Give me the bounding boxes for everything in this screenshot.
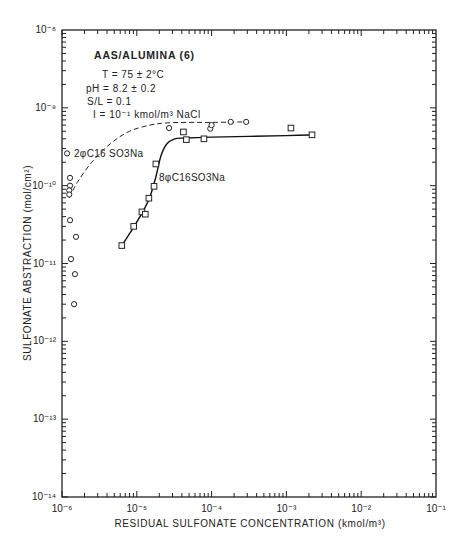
y-tick-label: 10⁻⁸: [35, 24, 56, 35]
y-tick-label: 10⁻¹⁰: [32, 180, 56, 191]
data-point-circle: [67, 192, 72, 197]
x-axis-title: RESIDUAL SULFONATE CONCENTRATION (kmol/m…: [114, 518, 385, 529]
y-tick-label: 10⁻⁹: [35, 102, 56, 113]
fit-curve-2phi: [69, 122, 246, 198]
series-label-2phi: 2φC16 SO3Na: [74, 148, 143, 159]
fit-curves: [69, 122, 312, 246]
data-point-square: [143, 211, 149, 217]
condition-solid-liquid: S/L = 0.1: [87, 96, 131, 107]
y-tick-label: 10⁻¹¹: [33, 258, 57, 269]
condition-ph: pH = 8.2 ± 0.2: [86, 83, 156, 94]
data-point-circle: [166, 125, 171, 130]
data-point-circle: [68, 256, 73, 261]
data-point-circle: [228, 119, 233, 124]
data-point-circle: [71, 302, 76, 307]
data-point-circle: [67, 175, 72, 180]
data-point-square: [309, 132, 315, 138]
fit-curve-8phi: [122, 135, 312, 246]
data-point-circle: [65, 151, 70, 156]
x-tick-label: 10⁻²: [351, 503, 371, 514]
x-tick-label: 10⁻³: [277, 503, 297, 514]
y-tick-label: 10⁻¹³: [33, 413, 57, 424]
x-tick-label: 10⁻⁶: [52, 503, 73, 514]
y-tick-label: 10⁻¹²: [33, 335, 57, 346]
series-label-8phi: 8φC16SO3Na: [159, 172, 225, 183]
data-point-circle: [67, 218, 72, 223]
data-point-square: [201, 136, 207, 142]
data-point-square: [181, 129, 187, 135]
x-tick-label: 10⁻¹: [426, 503, 446, 514]
data-point-circle: [72, 272, 77, 277]
annotation-block: AAS/ALUMINA (6) T = 75 ± 2°C pH = 8.2 ± …: [86, 49, 201, 120]
chart-title: AAS/ALUMINA (6): [94, 49, 195, 61]
data-point-circle: [244, 119, 249, 124]
x-tick-label: 10⁻⁵: [127, 503, 148, 514]
data-point-square: [131, 224, 137, 230]
data-point-square: [184, 137, 190, 143]
condition-ionic-strength: I = 10⁻¹ kmol/m³ NaCl: [93, 109, 201, 120]
data-point-square: [153, 161, 159, 167]
data-point-square: [151, 184, 157, 190]
data-point-circle: [209, 123, 214, 128]
condition-temperature: T = 75 ± 2°C: [102, 69, 164, 80]
data-point-square: [119, 243, 125, 249]
chart: 10⁻⁶10⁻⁵10⁻⁴10⁻³10⁻²10⁻¹10⁻⁸10⁻⁹10⁻¹⁰10⁻…: [0, 0, 465, 552]
x-tick-label: 10⁻⁴: [201, 503, 222, 514]
data-point-circle: [73, 234, 78, 239]
data-point-square: [288, 125, 294, 131]
y-tick-label: 10⁻¹⁴: [32, 491, 56, 502]
y-axis-title: SULFONATE ABSTRACTION (mol/cm²): [22, 165, 33, 361]
data-point-square: [146, 195, 152, 201]
